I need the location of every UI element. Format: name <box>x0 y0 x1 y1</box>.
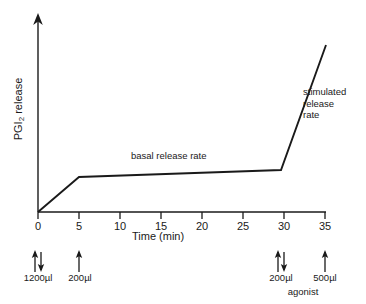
pgi2-release-figure: PGI2 release 0 5 10 15 20 25 30 35 Time … <box>0 0 366 304</box>
y-axis-title-base: PGI <box>12 121 24 140</box>
event-marker-200ul-right-arrow <box>275 250 287 272</box>
event-label-200ul-right: 200µl <box>258 272 304 283</box>
event-marker-500ul-arrow <box>322 250 328 272</box>
x-tick-label-35: 35 <box>310 221 340 232</box>
y-axis-title-suffix: release <box>12 78 24 117</box>
stimulated-release-rate-line-2: release <box>303 98 346 110</box>
x-tick-label-5: 5 <box>64 221 94 232</box>
x-tick-label-20: 20 <box>187 221 217 232</box>
x-tick-label-10: 10 <box>105 221 135 232</box>
event-group-label-agonist: agonist <box>280 286 326 297</box>
stimulated-release-rate-line-1: stimulated <box>303 86 346 98</box>
event-label-500ul: 500µl <box>302 272 348 283</box>
event-label-200ul-left: 200µl <box>57 272 103 283</box>
event-label-1200ul: 1200µl <box>15 272 61 283</box>
y-axis-title-subscript: 2 <box>17 117 26 121</box>
event-marker-1200ul-arrow <box>32 250 44 272</box>
event-marker-200ul-left-arrow <box>76 250 82 272</box>
x-tick-label-30: 30 <box>269 221 299 232</box>
stimulated-release-rate-line-3: rate <box>303 109 346 121</box>
pgi2-release-curve <box>38 45 326 212</box>
x-axis-title: Time (min) <box>132 231 184 242</box>
stimulated-release-rate-label: stimulated release rate <box>303 86 346 121</box>
x-axis <box>38 212 326 219</box>
x-tick-label-0: 0 <box>23 221 53 232</box>
y-axis-title: PGI2 release <box>13 64 25 154</box>
y-axis <box>33 13 43 212</box>
x-tick-label-25: 25 <box>228 221 258 232</box>
basal-release-rate-label: basal release rate <box>131 150 207 161</box>
